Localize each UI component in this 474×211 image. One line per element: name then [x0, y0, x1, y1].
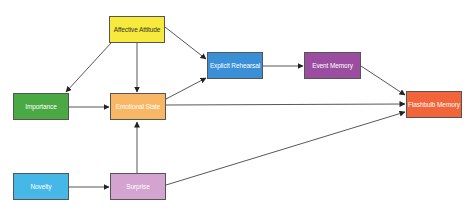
edge-emotional-rehearsal [166, 78, 206, 99]
edge-emotional-flashbulb [166, 104, 405, 105]
node-importance: Importance [13, 93, 69, 120]
node-affective-attitude: Affective Attitude [109, 16, 165, 43]
edge-affective-importance [66, 43, 111, 92]
edge-event-flashbulb [361, 66, 405, 95]
node-flashbulb-memory: Flashbulb Memory [406, 91, 462, 118]
node-surprise: Surprise [110, 173, 166, 200]
node-emotional-state: Emotional State [110, 93, 166, 120]
edge-surprise-flashbulb [166, 112, 405, 185]
node-event-memory: Event Memory [304, 52, 361, 79]
edges-layer [0, 0, 474, 211]
node-explicit-rehearsal: Explicit Rehearsal [207, 52, 263, 79]
node-novelty: Novelty [13, 173, 69, 200]
edge-affective-rehearsal [165, 27, 206, 59]
